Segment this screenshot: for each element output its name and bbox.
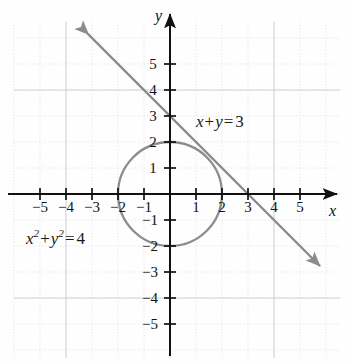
- x-axis-label: x: [329, 203, 336, 219]
- coordinate-plane: [0, 0, 348, 364]
- x-tick-label--2: −2: [108, 200, 128, 215]
- x-tick-label--4: −4: [56, 200, 76, 215]
- y-tick-label--4: −4: [139, 291, 161, 306]
- circle-eq-var-x: x: [26, 229, 34, 248]
- x-tick-label-1: 1: [189, 200, 203, 215]
- line-eq-rhs: 3: [234, 112, 245, 131]
- line-eq-var-y: y: [215, 112, 223, 131]
- x-tick-label-3: 3: [241, 200, 255, 215]
- circle-eq-equals: =: [64, 229, 76, 248]
- y-tick-label--1: −1: [139, 213, 161, 228]
- line-curve-main: [88, 34, 319, 265]
- x-tick-label-2: 2: [215, 200, 229, 215]
- y-tick-label-4: 4: [146, 83, 160, 98]
- x-tick-label--5: −5: [30, 200, 50, 215]
- circle-eq-rhs: 4: [76, 229, 87, 248]
- x-tick-label-5: 5: [293, 200, 307, 215]
- axes: [8, 14, 337, 356]
- x-tick-label--3: −3: [82, 200, 102, 215]
- circle-eq-plus: +: [39, 229, 51, 248]
- plotted-curves: [88, 34, 319, 271]
- x-tick-label-4: 4: [267, 200, 281, 215]
- y-tick-label-5: 5: [146, 57, 160, 72]
- circle-equation-annotation: x2+y2=4: [26, 228, 86, 247]
- line-equation-annotation: x+y=3: [196, 113, 245, 130]
- grid-lines: [14, 22, 340, 358]
- y-tick-label-1: 1: [146, 161, 160, 176]
- line-eq-equals: =: [223, 112, 235, 131]
- y-tick-label-3: 3: [146, 109, 160, 124]
- graph-figure: −5 −4 −3 −2 −1 1 2 3 4 5 5 4 3 2 1 −1 −2…: [0, 0, 348, 364]
- y-axis-label: y: [155, 8, 162, 24]
- y-tick-label--2: −2: [139, 239, 161, 254]
- y-tick-label-2: 2: [146, 135, 160, 150]
- y-tick-label--3: −3: [139, 265, 161, 280]
- y-tick-label--5: −5: [139, 317, 161, 332]
- line-eq-plus: +: [204, 112, 216, 131]
- line-eq-var-x: x: [196, 112, 204, 131]
